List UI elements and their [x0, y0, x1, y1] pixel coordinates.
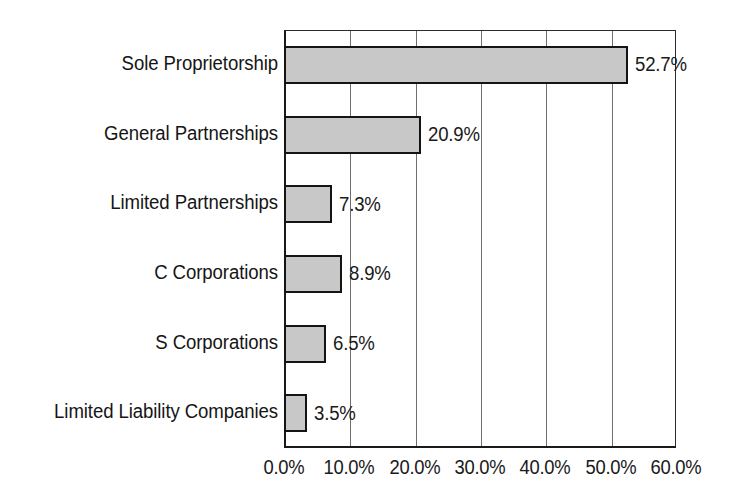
x-tick-label: 20.0%	[389, 456, 440, 479]
category-label: Sole Proprietorship	[19, 52, 278, 75]
category-label: Limited Partnerships	[19, 191, 278, 214]
bar-value-label: 8.9%	[349, 262, 391, 285]
bar-value-label: 7.3%	[339, 193, 381, 216]
category-axis-labels: Sole ProprietorshipGeneral PartnershipsL…	[0, 30, 278, 448]
category-label: General Partnerships	[19, 122, 278, 145]
bar-value-label: 6.5%	[333, 332, 375, 355]
bar-chart: 52.7%20.9%7.3%8.9%6.5%3.5% Sole Propriet…	[0, 0, 741, 500]
bar	[284, 325, 326, 363]
bar	[284, 46, 628, 84]
x-tick-label: 0.0%	[264, 456, 305, 479]
bar-value-label: 20.9%	[428, 123, 480, 146]
bars-layer: 52.7%20.9%7.3%8.9%6.5%3.5%	[284, 30, 676, 448]
bar-row: 20.9%	[284, 116, 676, 154]
bar-row: 3.5%	[284, 394, 676, 432]
bar	[284, 185, 332, 223]
bar-row: 7.3%	[284, 185, 676, 223]
bar	[284, 394, 307, 432]
category-label: C Corporations	[19, 261, 278, 284]
category-label: S Corporations	[19, 331, 278, 354]
bar-value-label: 52.7%	[635, 53, 687, 76]
x-tick-label: 10.0%	[324, 456, 375, 479]
bar-row: 52.7%	[284, 46, 676, 84]
bar-value-label: 3.5%	[314, 402, 356, 425]
x-tick-label: 50.0%	[585, 456, 636, 479]
x-tick-label: 30.0%	[455, 456, 506, 479]
x-axis-tick-labels: 0.0%10.0%20.0%30.0%40.0%50.0%60.0%	[284, 456, 676, 486]
bar-row: 8.9%	[284, 255, 676, 293]
category-label: Limited Liability Companies	[19, 400, 278, 423]
bar-row: 6.5%	[284, 325, 676, 363]
x-tick-label: 40.0%	[520, 456, 571, 479]
bar	[284, 116, 421, 154]
bar	[284, 255, 342, 293]
x-tick-label: 60.0%	[651, 456, 702, 479]
